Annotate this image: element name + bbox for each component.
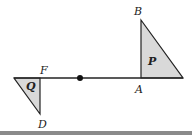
triangle-p bbox=[141, 20, 183, 78]
vertex-label-f: F bbox=[39, 64, 48, 77]
label-p: P bbox=[147, 55, 157, 68]
center-point bbox=[77, 75, 83, 81]
label-q: Q bbox=[26, 80, 36, 93]
vertex-label-a: A bbox=[134, 83, 143, 96]
geometry-diagram: P Q B A F D bbox=[0, 0, 192, 135]
bottom-bar bbox=[0, 131, 192, 135]
vertex-label-b: B bbox=[133, 5, 142, 18]
vertex-label-d: D bbox=[37, 118, 47, 131]
